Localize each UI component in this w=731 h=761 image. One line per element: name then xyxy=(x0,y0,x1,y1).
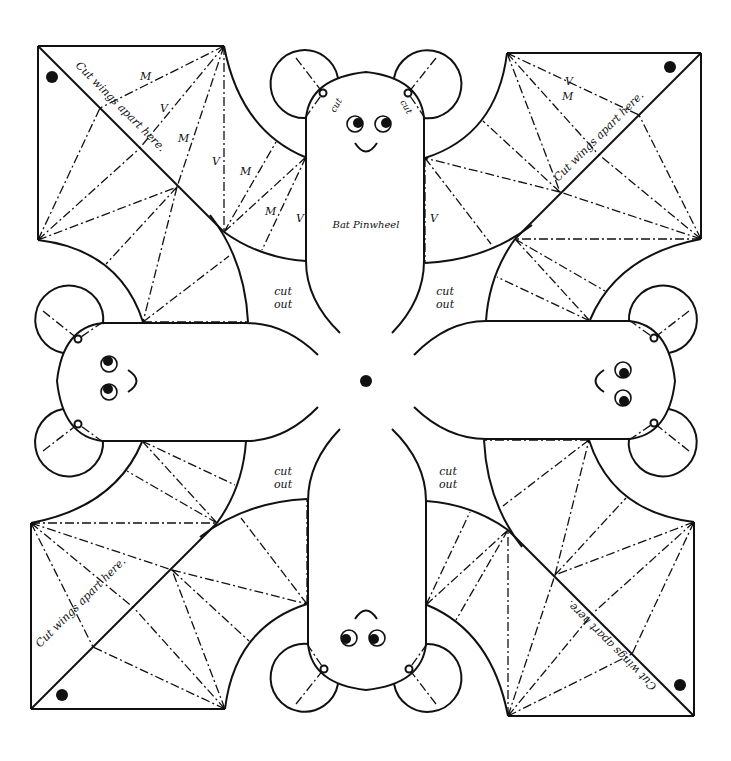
cut-wings-label-br: Cut wings apart here. xyxy=(564,598,659,693)
cut-out-label: out xyxy=(436,298,455,311)
fold-label: V xyxy=(565,75,574,88)
cut-out-label: out xyxy=(274,298,293,311)
cut-wings-label-tr: Cut wings apart here. xyxy=(551,89,646,184)
cut-wings-label-bl: Cut wings apart here. xyxy=(33,555,128,650)
fold-label: M xyxy=(264,205,277,218)
fold-label: V xyxy=(296,212,305,225)
fold-label: V xyxy=(430,212,439,225)
cut-out-label: cut xyxy=(439,465,457,478)
fold-label: M xyxy=(239,165,252,178)
cut-label: cut xyxy=(398,98,414,116)
cut-wings-label-tl: Cut wings apart here. xyxy=(73,59,168,154)
cut-label: cut xyxy=(328,96,344,114)
title-label: Bat Pinwheel xyxy=(332,219,400,230)
bat-pinwheel-template: Bat Pinwheel Cut wings apart here. Cut w… xyxy=(0,0,731,761)
fold-label: V xyxy=(160,102,169,115)
cut-out-label: cut xyxy=(274,465,292,478)
fold-label: M xyxy=(139,70,152,83)
cut-out-label: cut xyxy=(436,285,454,298)
fold-label: V xyxy=(212,155,221,168)
fold-label: M xyxy=(561,90,574,103)
fold-label: M xyxy=(177,132,190,145)
cut-out-label: cut xyxy=(274,285,292,298)
cut-out-label: out xyxy=(439,478,458,491)
cut-out-label: out xyxy=(274,478,293,491)
center-pin-dot xyxy=(360,375,372,387)
